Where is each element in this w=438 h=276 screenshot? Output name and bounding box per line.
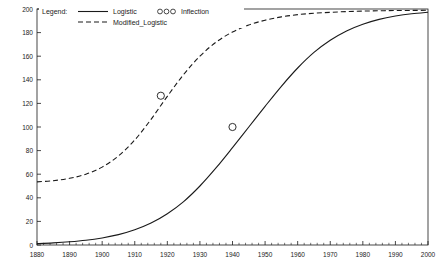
y-tick-label: 200 [22,6,33,13]
x-tick-label: 1980 [356,251,371,258]
y-tick-label: 20 [26,218,34,225]
inflection-marker [157,92,164,99]
x-tick-label: 1920 [160,251,175,258]
x-tick-label: 1880 [30,251,45,258]
y-tick-label: 180 [22,29,33,36]
y-tick-label: 60 [26,171,34,178]
legend-swatch-inflection [164,9,169,14]
y-tick-label: 100 [22,124,33,131]
x-tick-label: 2000 [421,251,436,258]
y-tick-label: 160 [22,53,33,60]
x-tick-label: 1990 [388,251,403,258]
legend-swatch-inflection [171,9,176,14]
x-tick-label: 1960 [290,251,305,258]
x-tick-label: 1950 [258,251,273,258]
x-tick-label: 1940 [225,251,240,258]
y-tick-label: 80 [26,147,34,154]
x-tick-label: 1890 [62,251,77,258]
chart-container: 1880189019001910192019301940195019601970… [0,0,438,276]
x-tick-label: 1900 [95,251,110,258]
inflection-marker [229,123,236,130]
y-tick-label: 0 [29,242,33,249]
y-tick-label: 140 [22,76,33,83]
y-tick-label: 40 [26,194,34,201]
series-line-modified_logistic [37,10,428,182]
x-tick-label: 1970 [323,251,338,258]
legend-label-modified-logistic: Modified_Logistic [113,19,168,27]
legend-label-inflection: Inflection [181,8,209,15]
legend-label-logistic: Logistic [113,8,137,16]
legend-swatch-inflection [158,9,163,14]
legend-title: Legend: [42,8,67,16]
x-tick-label: 1910 [128,251,143,258]
x-tick-label: 1930 [193,251,208,258]
y-tick-label: 120 [22,100,33,107]
logistic-growth-chart: 1880189019001910192019301940195019601970… [0,0,438,276]
